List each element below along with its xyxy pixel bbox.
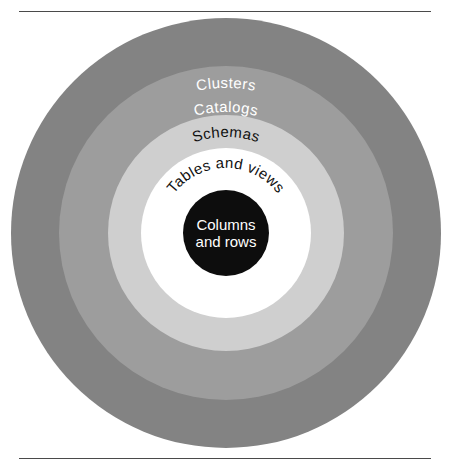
bottom-rule	[19, 458, 431, 459]
core-label-line-2: and rows	[196, 233, 257, 250]
figure-root: Clusters Catalogs Schemas Tables and vie…	[0, 0, 450, 468]
concentric-rings-diagram: Clusters Catalogs Schemas Tables and vie…	[0, 0, 450, 468]
core-label-line-1: Columns	[196, 216, 255, 233]
